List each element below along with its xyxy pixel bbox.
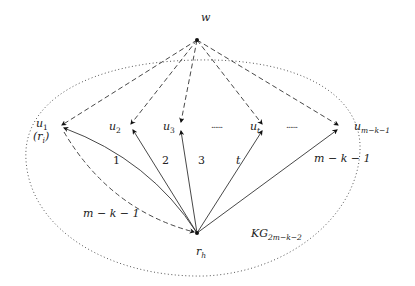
dashed-edge-label: m − k − 1 bbox=[83, 208, 140, 219]
region-boundary bbox=[26, 60, 360, 276]
region-label: KG2m−k−2 bbox=[251, 228, 302, 242]
label-um: um−k−1 bbox=[354, 121, 390, 135]
dashed-edges-from-w bbox=[62, 40, 338, 125]
edge-label-1: 1 bbox=[113, 155, 120, 166]
ellipsis-1: ...... bbox=[211, 121, 222, 130]
label-ut: ut bbox=[250, 121, 260, 135]
edge-label-3: 3 bbox=[198, 155, 205, 166]
edge-label-m-k-1: m − k − 1 bbox=[314, 153, 371, 164]
edge-label-t: t bbox=[236, 155, 240, 166]
nodes bbox=[195, 38, 199, 235]
edge-label-2: 2 bbox=[162, 155, 169, 166]
label-u3: u3 bbox=[163, 121, 175, 135]
graph-diagram bbox=[0, 0, 415, 286]
label-rh: rh bbox=[196, 246, 206, 260]
label-u2: u2 bbox=[109, 121, 121, 135]
label-ri: (ri) bbox=[33, 131, 49, 145]
label-w: w bbox=[201, 12, 210, 23]
ellipsis-2: ...... bbox=[286, 121, 297, 130]
node-rh bbox=[195, 231, 199, 235]
node-w bbox=[195, 38, 199, 42]
